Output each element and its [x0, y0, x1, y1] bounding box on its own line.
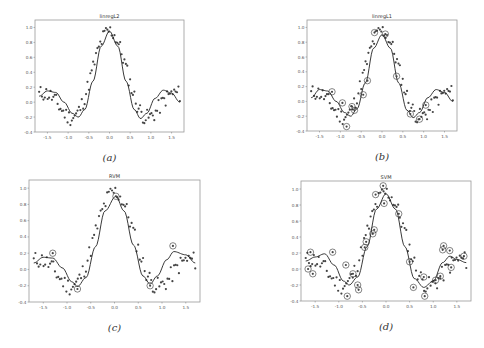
y-tick-label: 1.0 [20, 186, 27, 191]
data-points [310, 26, 454, 125]
x-tick-label: 0.5 [135, 305, 142, 310]
x-tick-label: 0.0 [383, 304, 390, 309]
data-points [38, 26, 181, 126]
x-tick-label: -1.0 [64, 135, 73, 140]
chart-title: linregL1 [307, 13, 457, 19]
y-tick-label: 1.0 [298, 25, 305, 30]
x-tick-label: 0.5 [127, 135, 134, 140]
y-tick-label: 1.0 [26, 25, 33, 30]
chart-panel-a: linregL2-1.5-1.0-0.50.00.51.01.5-0.4-0.2… [35, 20, 184, 132]
x-tick-label: 1.5 [453, 304, 460, 309]
y-tick-label: 0.4 [292, 235, 299, 240]
x-tick-label: 0.5 [406, 304, 413, 309]
y-tick-label: -0.2 [24, 115, 33, 120]
x-tick-label: 0.0 [111, 305, 118, 310]
x-tick-label: 0.5 [399, 134, 406, 139]
axes-frame [29, 180, 200, 302]
y-tick-label: 0.6 [298, 55, 305, 60]
x-tick-label: 0.0 [106, 135, 113, 140]
x-tick-label: -1.5 [315, 134, 324, 139]
y-tick-label: -0.2 [290, 283, 299, 288]
axes-frame [301, 181, 471, 301]
x-tick-label: 1.5 [182, 305, 189, 310]
y-tick-label: 0.4 [298, 69, 305, 74]
y-tick-label: -0.2 [296, 114, 305, 119]
x-tick-label: 1.0 [159, 305, 166, 310]
chart-panel-d: SVM-1.5-1.0-0.50.00.51.01.5-0.4-0.20.00.… [301, 181, 471, 301]
data-points [33, 187, 197, 296]
y-tick-label: 0.2 [20, 251, 27, 256]
fit-curve [311, 35, 453, 118]
chart-title: linregL2 [35, 13, 184, 19]
y-tick-label: 0.0 [26, 100, 33, 105]
x-tick-label: 1.0 [148, 135, 155, 140]
y-tick-label: -0.4 [296, 129, 305, 134]
y-tick-label: -0.4 [290, 299, 299, 304]
y-tick-label: 1.0 [292, 187, 299, 192]
chart-title: SVM [301, 174, 471, 180]
fit-curve [34, 196, 196, 286]
y-tick-label: 0.2 [292, 251, 299, 256]
y-tick-label: -0.2 [18, 283, 27, 288]
subfigure-caption: (a) [90, 152, 130, 163]
fit-curve [39, 31, 180, 118]
x-tick-label: 1.5 [168, 135, 175, 140]
y-tick-label: 0.0 [20, 267, 27, 272]
y-tick-label: 0.8 [20, 202, 27, 207]
x-tick-label: -0.5 [357, 134, 366, 139]
axes-frame [35, 20, 184, 132]
y-tick-label: 0.6 [20, 218, 27, 223]
y-tick-label: 0.0 [292, 267, 299, 272]
subfigure-caption: (b) [362, 151, 402, 162]
axes-frame [307, 20, 457, 131]
x-tick-label: -0.5 [87, 305, 96, 310]
plot-area: -1.5-1.0-0.50.00.51.01.5-0.4-0.20.00.20.… [307, 20, 457, 131]
chart-title: RVM [29, 173, 200, 179]
plot-area: -1.5-1.0-0.50.00.51.01.5-0.4-0.20.00.20.… [29, 180, 200, 302]
plot-area: -1.5-1.0-0.50.00.51.01.5-0.4-0.20.00.20.… [35, 20, 184, 132]
y-tick-label: 0.8 [292, 203, 299, 208]
x-tick-label: -0.5 [85, 135, 94, 140]
y-tick-label: 0.6 [26, 55, 33, 60]
y-tick-label: -0.4 [18, 300, 27, 305]
x-tick-label: 1.0 [420, 134, 427, 139]
x-tick-label: 1.5 [441, 134, 448, 139]
x-tick-label: -1.0 [335, 304, 344, 309]
x-tick-label: 0.0 [379, 134, 386, 139]
x-tick-label: -1.5 [311, 304, 320, 309]
y-tick-label: 0.4 [20, 234, 27, 239]
x-tick-label: -1.0 [63, 305, 72, 310]
x-tick-label: -1.0 [336, 134, 345, 139]
x-tick-label: 1.0 [430, 304, 437, 309]
data-points [305, 188, 468, 295]
subfigure-caption: (d) [366, 321, 406, 332]
y-tick-label: 0.8 [298, 40, 305, 45]
subfigure-caption: (c) [95, 322, 135, 333]
y-tick-label: 0.2 [298, 84, 305, 89]
plot-area: -1.5-1.0-0.50.00.51.01.5-0.4-0.20.00.20.… [301, 181, 471, 301]
y-tick-label: 0.2 [26, 85, 33, 90]
chart-panel-b: linregL1-1.5-1.0-0.50.00.51.01.5-0.4-0.2… [307, 20, 457, 131]
x-tick-label: -1.5 [43, 135, 52, 140]
y-tick-label: -0.4 [24, 130, 33, 135]
y-tick-label: 0.4 [26, 70, 33, 75]
x-tick-label: -1.5 [39, 305, 48, 310]
x-tick-label: -0.5 [358, 304, 367, 309]
y-tick-label: 0.8 [26, 40, 33, 45]
y-tick-label: 0.0 [298, 99, 305, 104]
y-tick-label: 0.6 [292, 219, 299, 224]
chart-panel-c: RVM-1.5-1.0-0.50.00.51.01.5-0.4-0.20.00.… [29, 180, 200, 302]
